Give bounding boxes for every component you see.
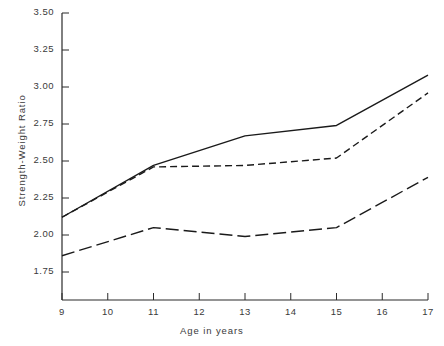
x-tick-label-12: 12 [189,306,209,317]
chart-figure: Strength-Weight Ratio Age in years 1.752… [0,0,444,346]
tick-marks [62,13,428,300]
x-tick-label-14: 14 [281,306,301,317]
y-tick-label-3.50: 3.50 [20,6,54,17]
x-tick-label-11: 11 [144,306,164,317]
series-short-dashed-series [62,93,428,217]
x-tick-label-15: 15 [327,306,347,317]
y-tick-label-3.25: 3.25 [20,43,54,54]
x-tick-label-10: 10 [98,306,118,317]
y-tick-label-1.75: 1.75 [20,265,54,276]
series-lines [62,75,428,256]
x-tick-label-17: 17 [418,306,438,317]
y-tick-label-3.00: 3.00 [20,80,54,91]
x-tick-label-16: 16 [372,306,392,317]
y-tick-label-2.00: 2.00 [20,228,54,239]
y-tick-label-2.75: 2.75 [20,117,54,128]
series-solid-series [62,75,428,217]
x-tick-label-13: 13 [235,306,255,317]
y-tick-label-2.50: 2.50 [20,154,54,165]
plot-area [0,0,444,346]
x-tick-label-9: 9 [52,306,72,317]
series-long-dashed-series [62,177,428,255]
y-tick-label-2.25: 2.25 [20,191,54,202]
axis-lines [62,13,428,300]
